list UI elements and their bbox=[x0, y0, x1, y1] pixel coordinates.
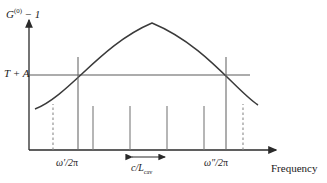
gain-curve-diagram bbox=[0, 0, 327, 183]
gain-curve bbox=[35, 23, 258, 109]
omega-double-prime-base: ω″/2 bbox=[204, 157, 223, 168]
y-axis-label-base: G bbox=[6, 8, 14, 20]
omega-prime-label: ω′/2π bbox=[56, 158, 78, 168]
omega-prime-base: ω′/2 bbox=[56, 157, 73, 168]
fsr-denominator-subscript: cav bbox=[144, 168, 153, 175]
y-axis-label-suffix: − 1 bbox=[22, 8, 40, 20]
threshold-label: T + A bbox=[4, 68, 29, 79]
figure-container: G(0) − 1 T + A ω′/2π ω″/2π c/Lcav Freque… bbox=[0, 0, 327, 183]
mode-spacing-label: c/Lcav bbox=[131, 163, 152, 175]
omega-prime-pi: π bbox=[73, 157, 78, 168]
omega-double-prime-label: ω″/2π bbox=[204, 158, 228, 168]
y-axis-label-superscript: (0) bbox=[14, 7, 22, 14]
y-axis-label: G(0) − 1 bbox=[6, 8, 40, 20]
omega-double-prime-pi: π bbox=[223, 157, 228, 168]
x-axis-label: Frequency bbox=[271, 163, 317, 174]
